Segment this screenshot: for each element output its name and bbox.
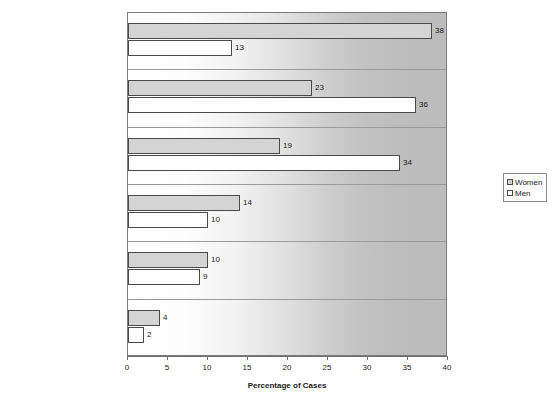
x-tick-label: 20 [283,363,292,372]
bar-group: 3813 [128,13,446,70]
plot-area: 381323361934141010942 [127,12,447,356]
bar-women [128,195,240,211]
x-tick [247,356,248,360]
bar-value-label: 14 [243,199,252,207]
x-axis: 0510152025303540 [127,356,447,357]
bar-women [128,138,280,154]
bar-value-label: 10 [211,256,220,264]
bar-men [128,212,208,228]
bar-women [128,80,312,96]
bar-men [128,327,144,343]
bar-value-label: 23 [315,84,324,92]
bar-value-label: 19 [283,142,292,150]
legend-label: Men [515,189,531,198]
bar-value-label: 36 [419,101,428,109]
bar-group: 1934 [128,128,446,185]
legend-label: Women [515,178,542,187]
x-tick [367,356,368,360]
x-tick-label: 5 [165,363,169,372]
bar-value-label: 38 [435,27,444,35]
x-tick-label: 25 [323,363,332,372]
x-tick [447,356,448,360]
x-axis-title: Percentage of Cases [127,381,447,390]
bar-group: 1410 [128,185,446,242]
bar-value-label: 34 [403,159,412,167]
x-tick-label: 40 [443,363,452,372]
x-tick [207,356,208,360]
x-tick-label: 15 [243,363,252,372]
x-tick [167,356,168,360]
bar-group: 109 [128,242,446,299]
bar-group: 42 [128,300,446,357]
legend-item-men: Men [507,188,542,198]
bar-men [128,97,416,113]
x-tick [407,356,408,360]
bar-women [128,252,208,268]
bar-group: 2336 [128,70,446,127]
bar-men [128,40,232,56]
bar-value-label: 10 [211,216,220,224]
bar-value-label: 13 [235,44,244,52]
bar-women [128,23,432,39]
bar-value-label: 9 [203,273,207,281]
bar-men [128,155,400,171]
x-tick-label: 0 [125,363,129,372]
x-tick-label: 10 [203,363,212,372]
bar-women [128,310,160,326]
x-tick [327,356,328,360]
legend-item-women: Women [507,177,542,187]
bar-value-label: 4 [163,314,167,322]
chart-legend: WomenMen [503,173,547,202]
x-tick-label: 30 [363,363,372,372]
bar-value-label: 2 [147,331,151,339]
legend-swatch-icon [507,179,513,185]
bar-men [128,269,200,285]
x-tick [127,356,128,360]
x-tick [287,356,288,360]
bar-chart: 381323361934141010942 0510152025303540 P… [0,0,558,408]
x-tick-label: 35 [403,363,412,372]
legend-swatch-icon [507,190,513,196]
